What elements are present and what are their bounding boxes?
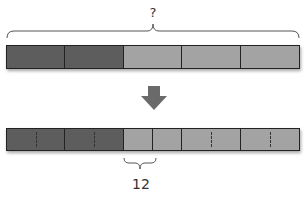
bottom-segment-dark-1 xyxy=(6,128,65,151)
bottom-segment-dark-2 xyxy=(65,128,124,151)
top-segment-light-3 xyxy=(241,45,300,69)
dashed-divider xyxy=(211,132,212,147)
bottom-segment-light-3 xyxy=(241,128,300,151)
dashed-divider xyxy=(36,132,37,147)
top-brace-label: ? xyxy=(143,5,163,20)
bottom-bar xyxy=(6,128,300,151)
top-segment-light-1 xyxy=(124,45,182,69)
top-segment-light-2 xyxy=(182,45,241,69)
bottom-brace-label: 12 xyxy=(126,176,156,192)
bottom-segment-light-2 xyxy=(182,128,241,151)
top-segment-dark-1 xyxy=(6,45,65,69)
down-arrow-icon xyxy=(140,86,168,112)
top-bar xyxy=(6,45,300,69)
dashed-divider xyxy=(270,132,271,147)
bottom-segment-light-half-2 xyxy=(153,128,182,151)
dashed-divider xyxy=(94,132,95,147)
bottom-segment-light-half-1 xyxy=(124,128,153,151)
bottom-brace xyxy=(120,156,160,172)
top-segment-dark-2 xyxy=(65,45,124,69)
